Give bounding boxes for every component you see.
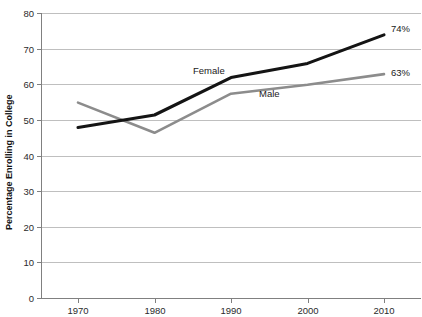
end-label-male: 63% [391, 67, 411, 78]
line-chart: 80 70 60 50 40 30 20 10 0 1970 1980 1990… [0, 0, 422, 317]
series-label-male: Male [259, 88, 280, 99]
y-tick-label: 50 [23, 115, 34, 126]
gridlines [42, 14, 422, 263]
y-tick-label: 10 [23, 257, 34, 268]
x-tick-label: 1990 [220, 305, 241, 316]
x-axis-tick-labels: 1970 1980 1990 2000 2010 [67, 305, 394, 316]
chart-canvas: 80 70 60 50 40 30 20 10 0 1970 1980 1990… [0, 0, 422, 317]
series-line-male [78, 74, 384, 133]
end-label-female: 74% [391, 23, 411, 34]
x-tick-label: 2010 [373, 305, 394, 316]
series-label-female: Female [193, 65, 225, 76]
y-axis-tickmarks [37, 14, 42, 299]
y-tick-label: 20 [23, 222, 34, 233]
x-tick-label: 1970 [67, 305, 88, 316]
y-tick-label: 0 [29, 293, 34, 304]
y-tick-label: 30 [23, 186, 34, 197]
y-axis-title: Percentage Enrolling in College [4, 94, 14, 230]
y-axis-tick-labels: 80 70 60 50 40 30 20 10 0 [23, 8, 34, 304]
x-tick-label: 2000 [297, 305, 318, 316]
x-tick-label: 1980 [144, 305, 165, 316]
x-axis-tickmarks [78, 299, 384, 304]
y-tick-label: 60 [23, 79, 34, 90]
y-tick-label: 80 [23, 8, 34, 19]
y-tick-label: 70 [23, 44, 34, 55]
y-tick-label: 40 [23, 151, 34, 162]
